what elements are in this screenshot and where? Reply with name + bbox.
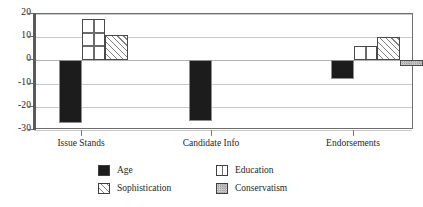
- bar-sophistication-endorsements: [377, 37, 400, 60]
- legend-label: Education: [235, 165, 274, 176]
- legend-swatch-sophistication-icon: [98, 183, 110, 194]
- bar-age-candidate-info: [189, 60, 212, 120]
- y-axis-spine: [33, 13, 36, 130]
- x-axis-ticks: [33, 130, 413, 136]
- x-tick-mark: [211, 130, 212, 136]
- x-tick-mark: [353, 130, 354, 136]
- legend-swatch-conservatism-icon: [216, 183, 228, 194]
- legend-item-age[interactable]: Age: [98, 164, 133, 177]
- legend-item-sophistication[interactable]: Sophistication: [98, 182, 171, 195]
- chart-legend: AgeSophisticationEducationConservatism: [98, 163, 328, 197]
- bar-education-endorsements: [354, 46, 377, 60]
- bar-conservatism-endorsements: [400, 60, 423, 66]
- x-tick-label-endorsements: Endorsements: [326, 138, 380, 149]
- legend-swatch-education-icon: [216, 165, 228, 176]
- x-tick-mark: [81, 130, 82, 136]
- legend-item-education[interactable]: Education: [216, 164, 274, 177]
- legend-label: Sophistication: [117, 183, 171, 194]
- y-axis-ticks: 20100-10-20-30: [0, 13, 31, 130]
- plot-area: [33, 13, 413, 129]
- x-tick-label-issue-stands: Issue Stands: [57, 138, 104, 149]
- bar-age-issue-stands: [59, 60, 82, 123]
- bar-education-issue-stands: [82, 19, 105, 61]
- legend-swatch-age-icon: [98, 165, 110, 176]
- legend-label: Age: [117, 165, 133, 176]
- legend-label: Conservatism: [235, 183, 287, 194]
- x-tick-label-candidate-info: Candidate Info: [183, 138, 240, 149]
- bar-sophistication-issue-stands: [105, 35, 128, 61]
- bar-age-endorsements: [331, 60, 354, 79]
- bars-layer: [34, 14, 412, 128]
- legend-item-conservatism[interactable]: Conservatism: [216, 182, 287, 195]
